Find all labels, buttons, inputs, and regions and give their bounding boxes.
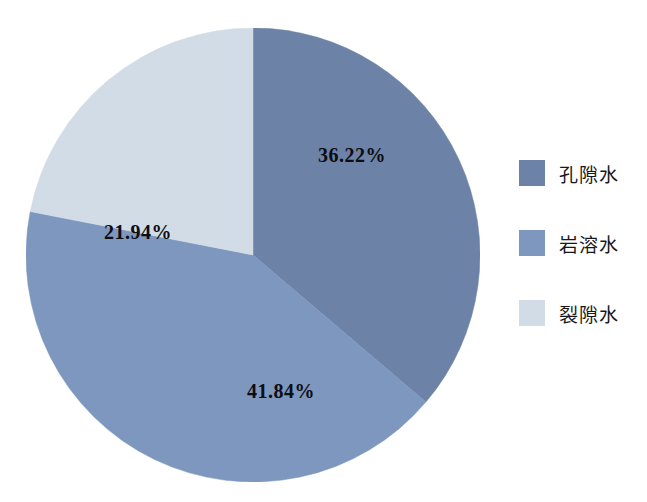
- slice-value-label-kongxishui: 36.22%: [318, 144, 386, 167]
- legend-label-liexishui: 裂隙水: [559, 300, 619, 327]
- legend-swatch-icon-yanrongshui: [519, 230, 545, 256]
- legend-item-liexishui: 裂隙水: [519, 298, 643, 328]
- pie-chart-figure: 36.22% 41.84% 21.94% 孔隙水 岩溶水 裂隙水: [0, 0, 647, 502]
- pie-chart-plot-area: 36.22% 41.84% 21.94%: [26, 28, 480, 482]
- slice-value-label-liexishui: 21.94%: [104, 221, 172, 244]
- pie-chart-svg: [26, 28, 480, 482]
- legend-item-kongxishui: 孔隙水: [519, 158, 643, 188]
- legend-label-yanrongshui: 岩溶水: [559, 230, 619, 257]
- slice-value-label-yanrongshui: 41.84%: [247, 380, 315, 403]
- legend-swatch-icon-liexishui: [519, 300, 545, 326]
- legend-label-kongxishui: 孔隙水: [559, 160, 619, 187]
- pie-slice-group: [26, 28, 480, 482]
- chart-legend: 孔隙水 岩溶水 裂隙水: [519, 158, 643, 328]
- legend-swatch-icon-kongxishui: [519, 160, 545, 186]
- legend-item-yanrongshui: 岩溶水: [519, 228, 643, 258]
